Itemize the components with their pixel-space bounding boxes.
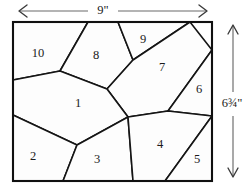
height-dimension-label: 6¾" (222, 96, 243, 110)
width-dimension-label: 9" (97, 3, 108, 17)
region-label-10: 10 (32, 46, 45, 60)
region-label-4: 4 (157, 137, 164, 151)
width-dimension-group: 9" (19, 3, 207, 17)
region-label-7: 7 (159, 60, 165, 74)
height-dimension-group: 6¾" (222, 25, 243, 177)
region-label-5: 5 (194, 152, 200, 166)
region-label-1: 1 (75, 96, 81, 110)
region-label-2: 2 (30, 149, 36, 163)
region-label-9: 9 (140, 32, 146, 46)
region-label-3: 3 (94, 152, 100, 166)
rectangle-partition-diagram: 9" 6¾" 1 2 (0, 0, 249, 188)
region-label-6: 6 (196, 82, 202, 96)
figure-container: 9" 6¾" 1 2 (0, 0, 249, 188)
region-label-8: 8 (93, 48, 99, 62)
